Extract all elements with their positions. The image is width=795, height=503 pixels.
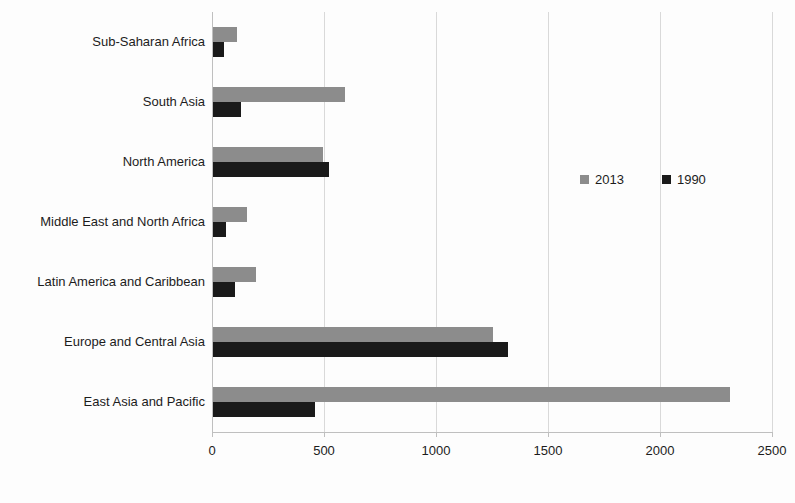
legend-item-1990[interactable]: 1990 (662, 172, 706, 187)
x-axis-line (212, 432, 773, 433)
bar-2013[interactable] (213, 267, 256, 282)
bar-2013[interactable] (213, 27, 237, 42)
y-axis-label: North America (0, 155, 205, 169)
x-axis-tick-label: 2000 (646, 443, 675, 458)
x-axis-tick-label: 0 (208, 443, 215, 458)
x-axis-tick-label: 1500 (534, 443, 563, 458)
legend-item-2013[interactable]: 2013 (580, 172, 624, 187)
gridline-2000 (660, 12, 661, 432)
y-axis-labels: Sub-Saharan AfricaSouth AsiaNorth Americ… (0, 12, 205, 432)
gridline-1500 (548, 12, 549, 432)
x-axis-tick (660, 432, 661, 437)
bar-chart: Sub-Saharan AfricaSouth AsiaNorth Americ… (0, 0, 795, 503)
x-axis-tick-label: 2500 (758, 443, 787, 458)
x-axis-tick (324, 432, 325, 437)
legend-label-1990: 1990 (677, 172, 706, 187)
bar-2013[interactable] (213, 387, 730, 402)
y-axis-label: Europe and Central Asia (0, 335, 205, 349)
gridline-500 (324, 12, 325, 432)
bar-1990[interactable] (213, 342, 508, 357)
bar-1990[interactable] (213, 162, 329, 177)
y-axis-label: South Asia (0, 95, 205, 109)
y-axis-label: Latin America and Caribbean (0, 275, 205, 289)
plot-area (212, 12, 772, 432)
bar-2013[interactable] (213, 327, 493, 342)
bar-2013[interactable] (213, 207, 247, 222)
x-axis-tick (772, 432, 773, 437)
bar-1990[interactable] (213, 402, 315, 417)
x-axis-tick (548, 432, 549, 437)
legend-label-2013: 2013 (595, 172, 624, 187)
legend-swatch-2013-icon (580, 175, 589, 184)
chart-legend: 2013 1990 (580, 172, 706, 187)
legend-swatch-1990-icon (662, 175, 671, 184)
bar-1990[interactable] (213, 42, 224, 57)
y-axis-label: Sub-Saharan Africa (0, 35, 205, 49)
x-axis-tick-label: 1000 (422, 443, 451, 458)
x-axis-tick (436, 432, 437, 437)
bar-1990[interactable] (213, 102, 241, 117)
bar-2013[interactable] (213, 87, 345, 102)
y-axis-label: East Asia and Pacific (0, 395, 205, 409)
x-axis-tick-label: 500 (313, 443, 335, 458)
bar-2013[interactable] (213, 147, 323, 162)
gridline-2500 (772, 12, 773, 432)
y-axis-label: Middle East and North Africa (0, 215, 205, 229)
x-axis-tick (212, 432, 213, 437)
bar-1990[interactable] (213, 282, 235, 297)
gridline-1000 (436, 12, 437, 432)
bar-1990[interactable] (213, 222, 226, 237)
